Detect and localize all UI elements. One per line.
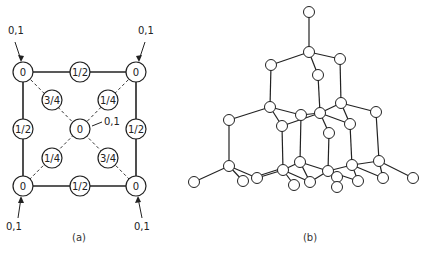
atom-node: 3/4: [42, 90, 62, 110]
atom-node: 1/2: [13, 119, 33, 139]
atom-node: 0: [13, 176, 33, 196]
atom-node: 1/2: [70, 62, 90, 82]
diamond-structure-figure: 0,1 0,1 0,1 0,1 0,1 0 1/2 0 1/2 0 1/2 0 …: [0, 0, 426, 258]
caption-a: (a): [72, 232, 86, 243]
svg-text:3/4: 3/4: [44, 95, 60, 106]
svg-text:0: 0: [133, 181, 139, 192]
annotation-0-1: 0,1: [6, 221, 22, 232]
svg-text:0: 0: [20, 67, 26, 78]
annotation-0-1: 0,1: [8, 25, 24, 36]
annotation-0-1: 0,1: [104, 116, 120, 127]
svg-text:1/2: 1/2: [72, 181, 88, 192]
svg-text:1/4: 1/4: [100, 95, 116, 106]
figure-a-unit-cell-projection: 0,1 0,1 0,1 0,1 0,1 0 1/2 0 1/2 0 1/2 0 …: [6, 25, 154, 243]
atom-node: 3/4: [98, 148, 118, 168]
atom-node: 1/4: [98, 90, 118, 110]
atom-node: 0: [70, 119, 90, 139]
caption-b: (b): [303, 232, 317, 243]
svg-text:1/4: 1/4: [44, 153, 60, 164]
atom-node: 0: [13, 62, 33, 82]
svg-text:1/2: 1/2: [15, 124, 31, 135]
atom-node: 1/2: [70, 176, 90, 196]
svg-text:0: 0: [133, 67, 139, 78]
annotation-0-1: 0,1: [134, 221, 150, 232]
svg-text:1/2: 1/2: [128, 124, 144, 135]
svg-text:3/4: 3/4: [100, 153, 116, 164]
svg-text:0: 0: [77, 124, 83, 135]
atom-node: 1/2: [126, 119, 146, 139]
atom-node: 1/4: [42, 148, 62, 168]
svg-text:0: 0: [20, 181, 26, 192]
svg-text:1/2: 1/2: [72, 67, 88, 78]
atom-node: [189, 7, 419, 193]
atom-node: 0: [126, 62, 146, 82]
annotation-0-1: 0,1: [138, 25, 154, 36]
figure-b-diamond-lattice: (b): [189, 7, 419, 244]
atom-node: 0: [126, 176, 146, 196]
